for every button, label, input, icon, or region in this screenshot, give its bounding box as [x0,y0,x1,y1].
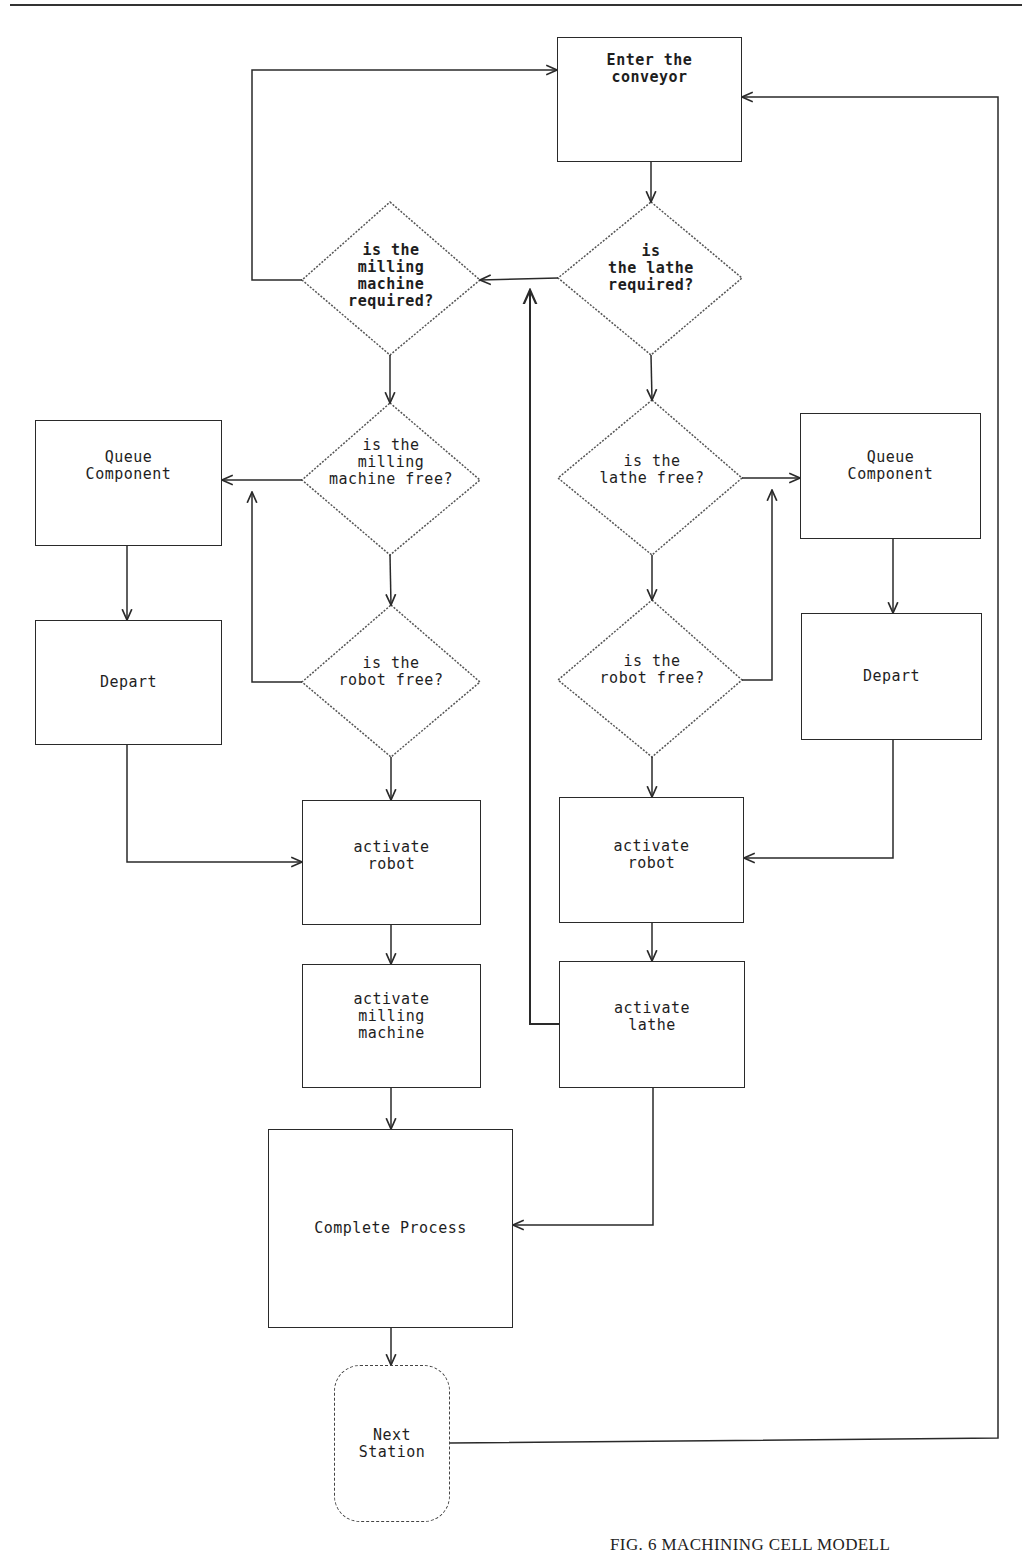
activate-lathe-label: activate lathe [614,1000,690,1034]
enter-conveyor-box: Enter the conveyor [557,37,742,162]
queue-component-right-label: Queue Component [848,449,934,483]
milling-required-label: is the milling machine required? [348,242,434,310]
milling-free-label: is the milling machine free? [329,437,453,488]
activate-milling-machine-box: activate milling machine [302,964,481,1088]
next-station-terminal: Next Station [334,1365,450,1522]
complete-process-label: Complete Process [314,1220,467,1237]
activate-robot-left-box: activate robot [302,800,481,925]
activate-robot-left-label: activate robot [353,839,429,873]
activate-robot-right-label: activate robot [613,838,689,872]
depart-left-box: Depart [35,620,222,745]
robot-free-left-label: is the robot free? [339,655,444,689]
activate-robot-right-box: activate robot [559,797,744,923]
figure-caption: FIG. 6 MACHINING CELL MODELL [610,1535,890,1555]
depart-right-label: Depart [863,668,920,685]
queue-component-right-box: Queue Component [800,413,981,539]
next-station-label: Next Station [359,1427,426,1461]
depart-right-box: Depart [801,613,982,740]
activate-lathe-box: activate lathe [559,961,745,1088]
connector-lines [0,0,1033,1560]
robot-free-right-label: is the robot free? [600,653,705,687]
queue-component-left-label: Queue Component [86,449,172,483]
complete-process-box: Complete Process [268,1129,513,1328]
lathe-required-label: is the lathe required? [608,243,694,294]
lathe-free-label: is the lathe free? [600,453,705,487]
queue-component-left-box: Queue Component [35,420,222,546]
flowchart-figure: Enter the conveyor Queue Component Depar… [0,0,1033,1560]
enter-conveyor-label: Enter the conveyor [607,52,693,86]
depart-left-label: Depart [100,674,157,691]
activate-milling-machine-label: activate milling machine [353,991,429,1042]
